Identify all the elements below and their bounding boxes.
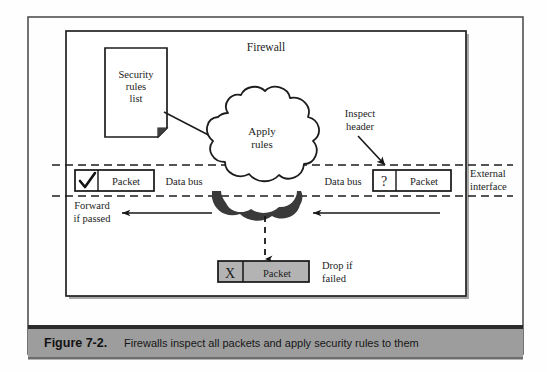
figure-page: Firewall Security rules list Apply rules <box>0 0 547 372</box>
drop-label-line-2: failed <box>322 273 347 284</box>
forward-label-line-2: if passed <box>73 213 111 224</box>
cloud-label-line-2: rules <box>251 138 272 150</box>
figure-caption: Firewalls inspect all packets and apply … <box>124 337 419 349</box>
question-icon: ? <box>381 174 387 189</box>
packet-dropped[interactable]: X Packet <box>218 261 309 282</box>
packet-inspected-label: Packet <box>410 176 438 187</box>
external-interface-line-2: interface <box>470 181 507 192</box>
packet-passed[interactable]: Packet <box>75 170 154 191</box>
packet-dropped-label: Packet <box>263 268 291 279</box>
forward-label-line-1: Forward <box>74 200 110 211</box>
figure-number: Figure 7-2. <box>44 336 107 350</box>
firewall-diagram: Firewall Security rules list Apply rules <box>0 0 547 372</box>
packet-inspected[interactable]: ? Packet <box>373 170 451 191</box>
packet-passed-label: Packet <box>112 176 140 187</box>
security-doc-line-2: rules <box>126 81 146 92</box>
security-doc-line-3: list <box>130 93 143 104</box>
cloud-label-line-1: Apply <box>248 125 276 137</box>
inspect-header-line-2: header <box>346 121 374 132</box>
security-doc-line-1: Security <box>119 69 155 80</box>
data-bus-left-label: Data bus <box>165 176 202 187</box>
firewall-title: Firewall <box>247 41 285 53</box>
drop-label-line-1: Drop if <box>322 260 353 271</box>
x-icon: X <box>225 266 235 281</box>
inspect-header-line-1: Inspect <box>345 108 375 119</box>
data-bus-right-label: Data bus <box>324 176 361 187</box>
external-interface-line-1: External <box>470 168 506 179</box>
